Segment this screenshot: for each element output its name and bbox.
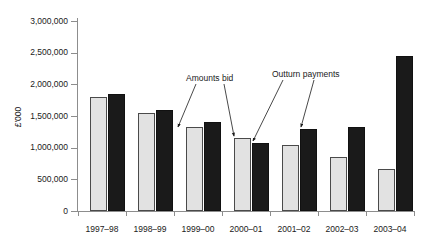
bar-outturn-payments <box>396 56 413 211</box>
y-tick-label-group: 3,000,000 <box>0 17 68 26</box>
x-axis-line <box>77 211 415 212</box>
x-tick-label-2001-02: 2001–02 <box>267 224 321 234</box>
y-tick-label: 1,500,000 <box>30 112 68 121</box>
annotation-amounts-bid: Amounts bid <box>186 73 233 83</box>
bar-amounts-bid <box>234 138 251 211</box>
y-tick-label-group: 500,000 <box>0 175 68 184</box>
x-axis-tick <box>318 211 319 216</box>
x-tick-label-2003-04: 2003–04 <box>363 224 417 234</box>
y-tick-label: 1,000,000 <box>30 143 68 152</box>
x-axis-tick <box>78 211 79 216</box>
bar-outturn-payments <box>300 129 317 211</box>
bar-amounts-bid <box>330 157 347 211</box>
y-tick-label-group: 2,000,000 <box>0 80 68 89</box>
x-axis-tick <box>270 211 271 216</box>
y-tick-label-group: 0 <box>0 207 68 216</box>
y-tick-label: 2,000,000 <box>30 80 68 89</box>
x-tick-label-1997-98: 1997–98 <box>75 224 129 234</box>
x-axis-tick <box>222 211 223 216</box>
x-axis-tick <box>174 211 175 216</box>
bar-outturn-payments <box>252 143 269 211</box>
y-tick-label: 0 <box>63 207 68 216</box>
annotation-outturn-payments: Outturn payments <box>272 69 340 79</box>
x-axis-tick <box>414 211 415 216</box>
bar-outturn-payments <box>108 94 125 211</box>
y-tick-label: 500,000 <box>37 175 68 184</box>
x-axis-tick <box>126 211 127 216</box>
bar-amounts-bid <box>378 169 395 211</box>
bar-outturn-payments <box>204 122 221 211</box>
y-tick-label-group: 1,000,000 <box>0 143 68 152</box>
y-tick-label: 2,500,000 <box>30 48 68 57</box>
bar-outturn-payments <box>348 127 365 211</box>
x-tick-label-2002-03: 2002–03 <box>315 224 369 234</box>
y-tick-label-group: 2,500,000 <box>0 48 68 57</box>
bar-outturn-payments <box>156 110 173 211</box>
x-tick-label-1998-99: 1998–99 <box>123 224 177 234</box>
x-tick-label-1999-00: 1999–00 <box>171 224 225 234</box>
x-axis-tick <box>366 211 367 216</box>
bar-amounts-bid <box>186 127 203 211</box>
bar-amounts-bid <box>138 113 155 211</box>
x-tick-label-2000-01: 2000–01 <box>219 224 273 234</box>
bar-amounts-bid <box>90 97 107 211</box>
plot-area <box>77 14 415 211</box>
y-tick-label-group: 1,500,000 <box>0 112 68 121</box>
bar-amounts-bid <box>282 145 299 211</box>
y-tick-label: 3,000,000 <box>30 17 68 26</box>
bar-chart: £'000 3,000,000 2,500,000 2,000,000 1,50… <box>0 0 432 252</box>
